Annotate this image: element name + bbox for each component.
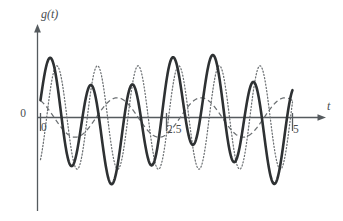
oscillation-plot: g(t) t 0 0 2.5 5 bbox=[0, 0, 343, 221]
figure-root: g(t) t 0 0 2.5 5 bbox=[0, 0, 343, 221]
x-tick-label-2-5: 2.5 bbox=[167, 123, 182, 135]
x-tick-label-0: 0 bbox=[41, 121, 47, 133]
y-axis-label: g(t) bbox=[41, 7, 58, 21]
x-tick-label-5: 5 bbox=[293, 123, 299, 135]
y-axis-arrow-icon bbox=[34, 24, 41, 33]
x-axis-label: t bbox=[327, 99, 331, 113]
x-axis-arrow-icon bbox=[318, 114, 327, 121]
origin-label: 0 bbox=[20, 107, 26, 119]
